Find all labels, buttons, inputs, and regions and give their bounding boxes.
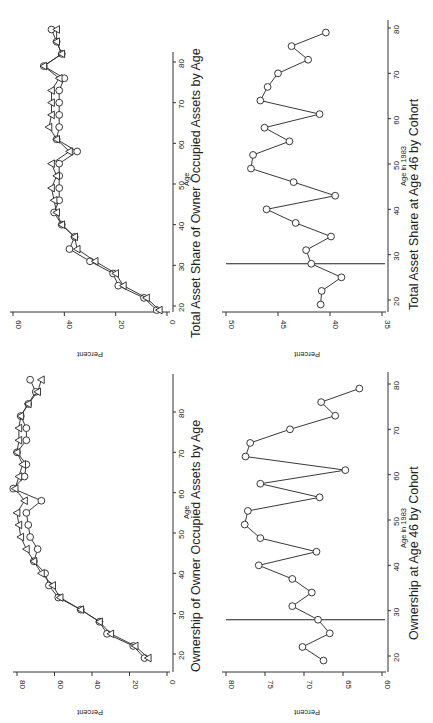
y-tick-label: 75: [266, 680, 275, 689]
x-axis-label-ownership-by-age: Age: [182, 506, 191, 519]
triangle-marker: [48, 87, 55, 95]
y-tick-label: 60: [14, 320, 23, 329]
y-axis-label-ownership-by-age: Percent: [76, 708, 103, 717]
circle-marker: [303, 247, 310, 254]
x-tick-label: 40: [392, 562, 401, 571]
figure-canvas: 203040506070800204060 203040506070803540…: [0, 0, 433, 723]
x-tick-label: 70: [177, 99, 186, 108]
y-tick-label: 40: [93, 680, 102, 689]
x-axis: 20304050607080: [173, 374, 186, 672]
y-tick-label: 60: [383, 680, 392, 689]
y-tick-label: 0: [168, 320, 177, 325]
circle-marker: [74, 148, 81, 155]
series-triangle: [11, 376, 151, 662]
circle-marker: [257, 97, 264, 104]
x-tick-label: 70: [177, 449, 186, 458]
x-tick-label: 70: [392, 70, 401, 79]
y-tick-label: 60: [56, 680, 65, 689]
circle-marker: [56, 185, 63, 192]
circle-marker: [308, 260, 315, 267]
x-tick-label: 60: [392, 115, 401, 124]
circle-marker: [27, 376, 34, 383]
panel-ownership-by-cohort: 203040506070806065707580: [222, 372, 401, 689]
y-tick-label: 45: [279, 320, 288, 329]
x-tick-label: 80: [177, 59, 186, 68]
circle-marker: [275, 70, 282, 77]
x-tick-label: 80: [177, 409, 186, 418]
circle-marker: [244, 508, 251, 515]
y-tick-label: 20: [117, 320, 126, 329]
y-axis: 6065707580: [222, 672, 392, 689]
panel-ownership-by-age: 20304050607080020406080: [10, 374, 186, 689]
circle-marker: [332, 192, 339, 199]
circle-marker: [56, 160, 63, 167]
triangle-marker: [15, 424, 22, 432]
triangle-marker: [48, 160, 55, 168]
series-circle: [10, 376, 148, 661]
circle-marker: [56, 124, 63, 131]
y-tick-label: 40: [65, 320, 74, 329]
panel-title-total-asset-share-by-age: Total Asset Share of Owner Occupied Asse…: [189, 48, 203, 338]
circle-marker: [316, 494, 323, 501]
circle-marker: [338, 274, 345, 281]
x-tick-label: 20: [392, 297, 401, 306]
y-tick-label: 40: [331, 320, 340, 329]
circle-marker: [316, 111, 323, 118]
circle-marker: [318, 288, 325, 295]
circle-marker: [308, 589, 315, 596]
circle-marker: [322, 29, 329, 36]
circle-marker: [290, 179, 297, 186]
circle-marker: [241, 521, 248, 528]
triangle-marker: [23, 545, 30, 553]
circle-marker: [23, 425, 30, 432]
series-circle: [241, 385, 362, 664]
circle-marker: [263, 206, 270, 213]
x-tick-label: 60: [177, 140, 186, 149]
x-tick-label: 50: [177, 530, 186, 539]
figure: 203040506070800204060 203040506070803540…: [0, 0, 433, 723]
circle-marker: [356, 385, 363, 392]
circle-marker: [288, 43, 295, 50]
y-tick-label: 65: [344, 680, 353, 689]
x-tick-label: 40: [177, 570, 186, 579]
circle-marker: [299, 644, 306, 651]
circle-marker: [56, 87, 63, 94]
x-axis-label-total-asset-share-by-age: Age: [182, 173, 191, 186]
circle-marker: [318, 399, 325, 406]
panel-title-total-asset-share-by-cohort: Total Asset Share at Age 46 by Cohort: [407, 98, 421, 310]
series-circle: [40, 26, 160, 313]
y-tick-label: 50: [227, 320, 236, 329]
circle-marker: [286, 138, 293, 145]
circle-marker: [23, 509, 30, 516]
circle-marker: [326, 630, 333, 637]
circle-marker: [261, 124, 268, 131]
triangle-marker: [48, 99, 55, 107]
x-axis-label-total-asset-share-by-cohort: Age in 1983: [399, 146, 408, 186]
x-tick-label: 70: [392, 426, 401, 435]
circle-marker: [287, 426, 294, 433]
x-tick-label: 60: [177, 489, 186, 498]
series-circle: [248, 29, 345, 308]
y-axis-label-ownership-by-cohort: Percent: [293, 708, 320, 717]
circle-marker: [257, 535, 264, 542]
circle-marker: [342, 467, 349, 474]
triangle-marker: [48, 184, 55, 192]
circle-marker: [328, 233, 335, 240]
circle-marker: [320, 657, 327, 664]
circle-marker: [264, 84, 271, 91]
y-tick-label: 20: [131, 680, 140, 689]
x-tick-label: 40: [177, 221, 186, 230]
triangle-marker: [13, 509, 20, 517]
triangle-marker: [38, 570, 45, 578]
circle-marker: [289, 576, 296, 583]
x-tick-label: 30: [177, 262, 186, 271]
y-axis-label-total-asset-share-by-age: Percent: [76, 350, 103, 359]
circle-marker: [305, 56, 312, 63]
circle-marker: [56, 99, 63, 106]
circle-marker: [289, 603, 296, 610]
x-tick-label: 20: [392, 653, 401, 662]
circle-marker: [38, 497, 45, 504]
x-tick-label: 60: [392, 471, 401, 480]
triangle-marker: [21, 497, 28, 505]
circle-marker: [250, 152, 257, 159]
